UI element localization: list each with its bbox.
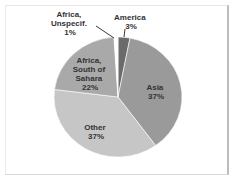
label-africa-unspecif: Africa, Unspecif. 1% (51, 10, 89, 37)
pie-chart: America 3% Asia 37% Other 37% Africa, So… (0, 0, 232, 177)
label-america: America 3% (114, 13, 148, 31)
leader-lines (96, 26, 125, 38)
leader-line-africa-unspecif (96, 26, 114, 38)
label-asia: Asia 37% (146, 83, 165, 101)
